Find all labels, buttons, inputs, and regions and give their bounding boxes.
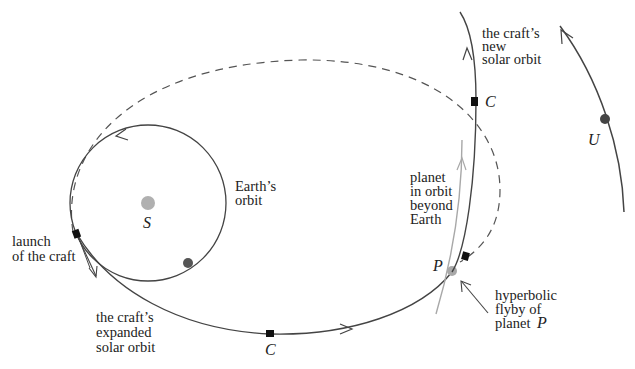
craft-label-top: C — [485, 93, 496, 110]
craft-marker-top — [471, 97, 478, 106]
planet-label-line4: Earth — [410, 211, 442, 227]
flyby-label-p: P — [536, 314, 547, 331]
sun-icon — [141, 196, 155, 210]
sun-label: S — [143, 214, 151, 231]
launch-vector-2 — [78, 236, 90, 268]
launch-label-line1: launch — [12, 233, 51, 249]
dashed-transfer-orbit — [71, 60, 500, 262]
planet-u-icon — [600, 114, 610, 124]
planet-p-label: P — [432, 257, 443, 274]
planet-u-orbit — [560, 26, 624, 212]
expanded-orbit-label-line2: expanded — [96, 324, 152, 340]
craft-new-orbit — [452, 12, 476, 272]
earth-icon — [183, 258, 193, 268]
expanded-orbit-label-line3: solar orbit — [96, 339, 155, 355]
new-orbit-arrow-icon — [463, 48, 472, 60]
planet-u-label: U — [588, 131, 601, 148]
craft-marker-flyby — [461, 251, 470, 261]
earth-orbit-label-line2: orbit — [235, 192, 262, 208]
craft-label-bottom: C — [265, 341, 276, 358]
expanded-orbit-label-line1: the craft’s — [96, 309, 154, 325]
flyby-pointer — [462, 282, 488, 313]
flyby-label-line3: planet — [495, 315, 530, 331]
new-orbit-label-line3: solar orbit — [482, 51, 541, 67]
launch-label-line2: of the craft — [12, 248, 76, 264]
craft-marker-bottom — [266, 330, 274, 337]
slingshot-diagram: S Earth’s orbit launch of the craft the … — [0, 0, 635, 369]
